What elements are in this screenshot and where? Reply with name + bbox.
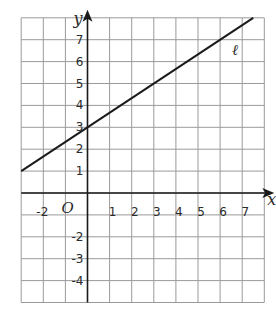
x-tick-label: 3 <box>153 205 161 219</box>
y-tick-label: 7 <box>76 33 84 47</box>
y-tick-label: -3 <box>72 252 84 266</box>
x-tick-label: -2 <box>36 205 48 219</box>
x-tick-label: 4 <box>175 205 183 219</box>
line-label: ℓ <box>232 41 238 59</box>
y-tick-label: 5 <box>76 77 84 91</box>
y-tick-label: 1 <box>76 164 84 178</box>
x-axis-label: x <box>267 190 276 209</box>
x-tick-label: 1 <box>109 205 117 219</box>
tick-labels: -212345677654321-2-3-4 <box>36 33 249 288</box>
x-tick-label: 6 <box>219 205 227 219</box>
line-l <box>21 18 253 171</box>
y-tick-label: 4 <box>76 98 84 112</box>
y-tick-label: 6 <box>76 55 84 69</box>
y-tick-label: -4 <box>72 274 84 288</box>
origin-label: O <box>61 199 73 217</box>
coordinate-plane: -212345677654321-2-3-4 x y O ℓ <box>0 0 276 317</box>
y-axis-label: y <box>73 9 84 28</box>
x-tick-label: 2 <box>131 205 139 219</box>
x-tick-label: 5 <box>197 205 205 219</box>
y-tick-label: -2 <box>72 230 84 244</box>
x-tick-label: 7 <box>241 205 249 219</box>
data-series <box>21 18 253 171</box>
grid <box>21 18 264 303</box>
y-tick-label: 2 <box>76 142 84 156</box>
